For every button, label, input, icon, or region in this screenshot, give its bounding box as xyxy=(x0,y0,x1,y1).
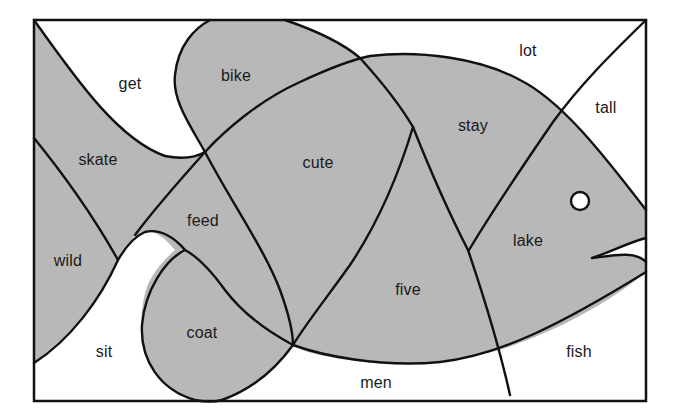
region-label-fish: fish xyxy=(566,343,592,361)
region-label-tall: tall xyxy=(595,99,616,117)
region-label-feed: feed xyxy=(187,212,219,230)
region-label-cute: cute xyxy=(302,154,333,172)
region-label-lake: lake xyxy=(513,232,543,250)
region-label-five: five xyxy=(395,281,421,299)
region-label-lot: lot xyxy=(519,42,537,60)
region-label-bike: bike xyxy=(221,67,251,85)
fish-eye-icon xyxy=(571,192,589,210)
region-label-sit: sit xyxy=(96,343,113,361)
fish-puzzle-diagram: get bike lot tall skate cute stay feed l… xyxy=(0,0,685,420)
region-label-skate: skate xyxy=(78,151,117,169)
region-label-men: men xyxy=(360,374,392,392)
region-label-coat: coat xyxy=(186,324,217,342)
region-label-stay: stay xyxy=(458,117,488,135)
region-label-wild: wild xyxy=(54,252,82,270)
region-label-get: get xyxy=(119,75,142,93)
